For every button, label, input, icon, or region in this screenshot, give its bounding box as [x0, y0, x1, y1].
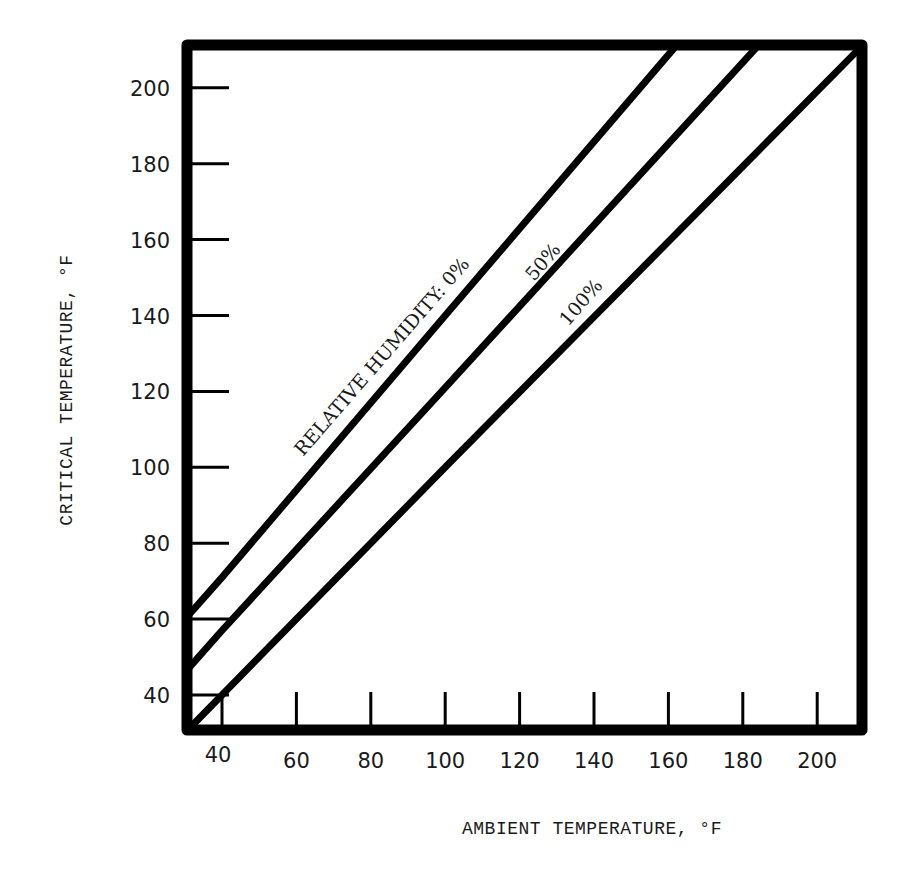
- x-tick-label: 160: [648, 749, 688, 773]
- y-axis-title: CRITICAL TEMPERATURE, °F: [57, 254, 77, 525]
- x-tick-label: 40: [205, 743, 232, 767]
- x-tick-label: 200: [797, 749, 837, 773]
- humidity-lines: [189, 46, 862, 729]
- line-rh-0-percent: [189, 46, 676, 615]
- chart-canvas: 4060801001201401601802004060801001201401…: [0, 0, 913, 879]
- y-tick-label: 120: [130, 380, 170, 404]
- y-tick-label: 160: [130, 229, 170, 253]
- y-tick-label: 140: [130, 305, 170, 329]
- y-tick-label: 100: [130, 456, 170, 480]
- annotation-relative-humidity-0: RELATIVE HUMIDITY: 0%: [289, 253, 473, 460]
- x-tick-label: 60: [283, 749, 310, 773]
- x-tick-label: 140: [574, 749, 614, 773]
- x-tick-label: 80: [357, 749, 384, 773]
- y-tick-label: 60: [143, 608, 170, 632]
- x-tick-label: 120: [500, 749, 540, 773]
- annotation-100-percent: 100%: [554, 274, 606, 329]
- y-tick-label: 40: [143, 684, 170, 708]
- x-axis-title: AMBIENT TEMPERATURE, °F: [462, 819, 722, 839]
- y-tick-label: 200: [130, 77, 170, 101]
- line-rh-50-percent: [189, 46, 758, 668]
- y-tick-label: 180: [130, 153, 170, 177]
- line-rh-100-percent: [189, 46, 862, 729]
- x-tick-label: 180: [723, 749, 763, 773]
- y-tick-label: 80: [143, 532, 170, 556]
- x-tick-label: 100: [425, 749, 465, 773]
